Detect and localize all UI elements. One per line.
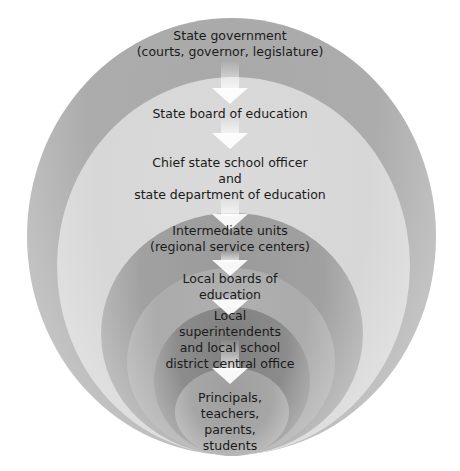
label-line: and local school: [0, 340, 460, 356]
label-line: district central office: [0, 356, 460, 372]
label-intermediate-units: Intermediate units (regional service cen…: [0, 223, 460, 255]
label-state-board: State board of education: [0, 106, 460, 122]
down-arrow-icon: [212, 62, 248, 104]
label-line: (regional service centers): [0, 239, 460, 255]
label-line: Local: [0, 308, 460, 324]
governance-diagram: State government (courts, governor, legi…: [0, 0, 460, 471]
label-line: Local boards of: [0, 271, 460, 287]
label-principals: Principals, teachers, parents, students: [0, 390, 460, 454]
label-line: teachers,: [0, 406, 460, 422]
label-state-government: State government (courts, governor, legi…: [0, 28, 460, 60]
label-line: (courts, governor, legislature): [0, 44, 460, 60]
label-line: state department of education: [0, 187, 460, 203]
label-local-superintendents: Local superintendents and local school d…: [0, 308, 460, 372]
label-line: education: [0, 287, 460, 303]
label-line: Intermediate units: [0, 223, 460, 239]
label-line: Chief state school officer: [0, 155, 460, 171]
label-line: State government: [0, 28, 460, 44]
label-line: State board of education: [0, 106, 460, 122]
label-line: and: [0, 171, 460, 187]
label-chief-state-school-officer: Chief state school officer and state dep…: [0, 155, 460, 203]
label-local-boards: Local boards of education: [0, 271, 460, 303]
label-line: parents,: [0, 422, 460, 438]
label-line: superintendents: [0, 324, 460, 340]
label-line: students: [0, 438, 460, 454]
label-line: Principals,: [0, 390, 460, 406]
